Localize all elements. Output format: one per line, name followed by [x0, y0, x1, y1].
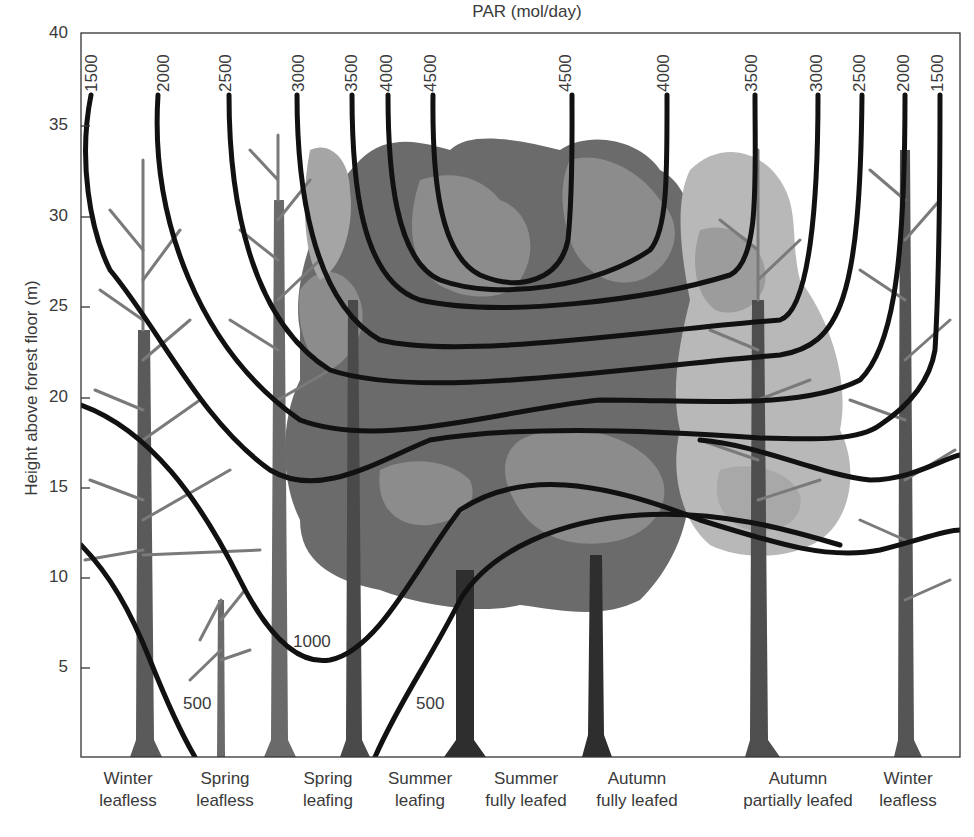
contour-label-1500-left: 1500 [82, 54, 102, 92]
category-line1: Autumn [567, 768, 707, 790]
contour-label-2500-right: 2500 [850, 54, 870, 92]
y-tick-10: 10 [30, 567, 68, 587]
category-autumn-fully-leafed: Autumn fully leafed [567, 768, 707, 812]
category-line2: fully leafed [567, 790, 707, 812]
contour-label-2500-left: 2500 [216, 54, 236, 92]
contour-label-4000-right: 4000 [654, 54, 674, 92]
contour-label-4500-right: 4500 [556, 54, 576, 92]
contour-label-3000-right: 3000 [807, 54, 827, 92]
y-tick-20: 20 [30, 387, 68, 407]
contour-label-500-left: 500 [183, 694, 211, 714]
contour-label-2000-left: 2000 [154, 54, 174, 92]
category-winter-leafless-right: Winter leafless [838, 768, 974, 812]
y-tick-5: 5 [30, 657, 68, 677]
contour-label-500-right: 500 [416, 694, 444, 714]
contour-label-1500-right: 1500 [928, 54, 948, 92]
y-tick-25: 25 [30, 296, 68, 316]
y-tick-15: 15 [30, 477, 68, 497]
category-line1: Winter [838, 768, 974, 790]
y-tick-30: 30 [30, 206, 68, 226]
contour-label-3500-right: 3500 [742, 54, 762, 92]
contour-label-4000-left: 4000 [377, 54, 397, 92]
y-tick-35: 35 [30, 115, 68, 135]
contour-label-2000-right: 2000 [894, 54, 914, 92]
forest-illustration [81, 95, 960, 757]
contour-label-3500-left: 3500 [342, 54, 362, 92]
contour-label-4500-left: 4500 [421, 54, 441, 92]
y-tick-40: 40 [30, 23, 68, 43]
chart-title: PAR (mol/day) [0, 2, 974, 22]
contour-label-1000: 1000 [293, 632, 331, 652]
category-line2: leafless [838, 790, 974, 812]
contour-label-3000-left: 3000 [289, 54, 309, 92]
par-contour-chart [0, 0, 974, 837]
